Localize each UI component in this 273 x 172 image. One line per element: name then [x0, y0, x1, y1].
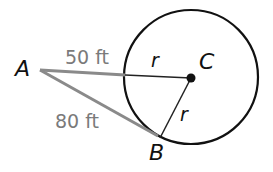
label-point-c: C: [199, 49, 215, 74]
label-80ft: 80 ft: [55, 110, 99, 132]
label-point-a: A: [13, 56, 30, 81]
label-point-b: B: [149, 140, 164, 165]
center-point-c: [187, 74, 196, 83]
label-radius-top: r: [151, 49, 160, 71]
geometry-diagram: A C B 50 ft 80 ft r r: [0, 0, 273, 172]
radius-segment-horizontal: [125, 75, 191, 78]
label-50ft: 50 ft: [65, 46, 109, 68]
segment-a-to-circle: [40, 70, 125, 75]
label-radius-bottom: r: [180, 103, 189, 125]
